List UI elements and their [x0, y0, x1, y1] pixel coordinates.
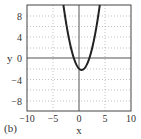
x-tick-label: −10 [19, 113, 35, 124]
parabola-curve [63, 5, 99, 70]
y-tick-label: −8 [11, 96, 22, 107]
y-tick-label: 0 [17, 53, 22, 64]
chart: 8 4 0 −4 −8 −10 −5 0 5 10 y x (b) [0, 0, 141, 139]
y-tick-label: −4 [11, 75, 22, 86]
x-tick-label: 5 [103, 113, 108, 124]
x-tick-label: 10 [126, 113, 136, 124]
x-axis-label: x [76, 124, 82, 136]
panel-label: (b) [4, 122, 17, 135]
y-axis-label: y [7, 52, 13, 64]
x-tick-label: 0 [77, 113, 82, 124]
x-tick-label: −5 [48, 113, 59, 124]
y-tick-label: 8 [17, 11, 22, 22]
y-tick-label: 4 [17, 32, 22, 43]
axes-lines [27, 5, 131, 111]
